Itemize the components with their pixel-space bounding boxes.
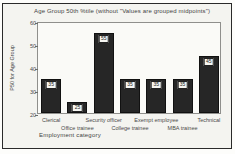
x-tick-label: Security officer: [86, 117, 122, 123]
y-tick-mark: [35, 46, 38, 47]
bar-value-label: 35: [151, 81, 162, 89]
bar: 35: [41, 79, 61, 114]
x-tick-label: Exempt employee: [134, 117, 178, 123]
bar-value-label: 35: [177, 81, 188, 89]
bar: 25: [67, 102, 87, 114]
y-tick-mark: [35, 115, 38, 116]
bar: 35: [120, 79, 140, 114]
bar-value-label: 45: [204, 58, 215, 66]
x-tick-label: Clerical: [42, 117, 60, 123]
x-tick-label: College trainee: [112, 125, 149, 131]
bar-value-label: 35: [125, 81, 136, 89]
bar: 35: [173, 79, 193, 114]
plot-area: 203040506035Clerical25Office trainee55Se…: [37, 22, 221, 114]
bar-value-label: 35: [46, 81, 57, 89]
x-tick-label: MBA trainee: [168, 125, 198, 131]
y-tick-mark: [35, 23, 38, 24]
bar-value-label: 25: [72, 104, 83, 112]
chart-title: Age Group 50th %tile (without "Values ar…: [34, 8, 231, 14]
x-tick-label: Office trainee: [61, 125, 94, 131]
x-axis-label: Employment category: [39, 132, 101, 138]
y-axis-label: P50 for Age Group: [9, 28, 15, 108]
bar: 45: [199, 56, 219, 114]
bar: 55: [94, 33, 114, 114]
chart-page: Age Group 50th %tile (without "Values ar…: [2, 3, 232, 149]
y-tick-mark: [35, 92, 38, 93]
bar: 35: [146, 79, 166, 114]
x-tick-label: Technical: [197, 117, 220, 123]
bar-value-label: 55: [98, 35, 109, 43]
y-tick-mark: [35, 69, 38, 70]
scanned-chart-screenshot: Age Group 50th %tile (without "Values ar…: [0, 0, 235, 154]
